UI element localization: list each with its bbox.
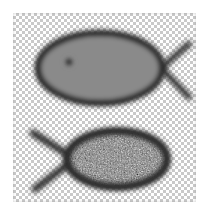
fish-bottom-body bbox=[63, 125, 175, 195]
fish-artwork-layer bbox=[13, 13, 196, 202]
fish-bottom bbox=[33, 125, 175, 195]
transparency-canvas bbox=[13, 13, 196, 202]
fish-bottom-noise-fill bbox=[63, 125, 175, 195]
fish-top-eye bbox=[64, 57, 73, 66]
fish-top-body bbox=[38, 33, 162, 103]
fish-top-tail bbox=[161, 44, 189, 97]
fish-svg bbox=[13, 13, 196, 202]
canvas-edge-shading bbox=[13, 13, 196, 202]
fish-top bbox=[38, 33, 189, 103]
fish-bottom-tail bbox=[33, 133, 75, 189]
image-root bbox=[0, 0, 209, 215]
